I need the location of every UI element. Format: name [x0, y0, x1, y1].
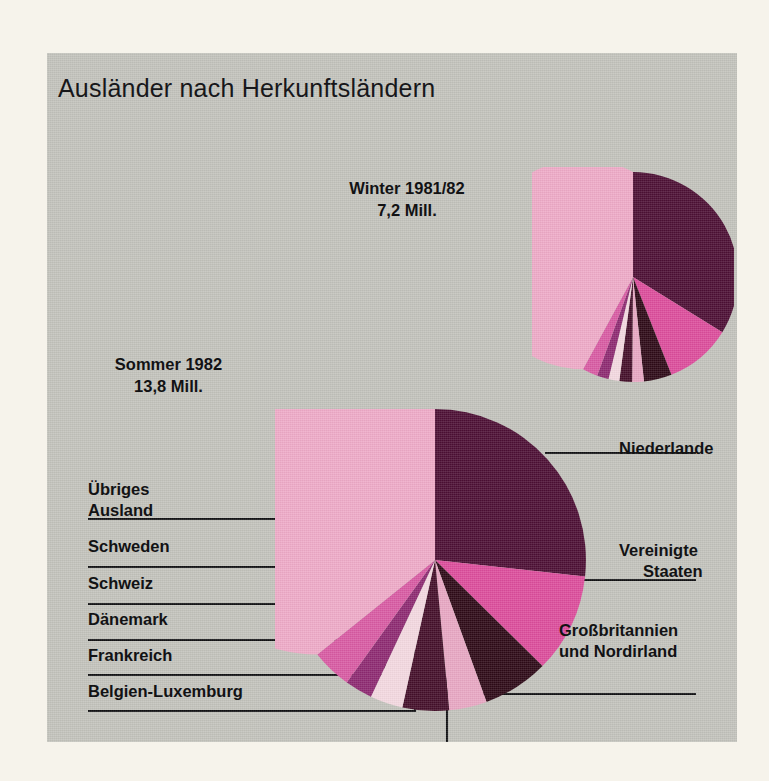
pie-chart-sommer — [275, 409, 613, 742]
caption-winter: Winter 1981/82 7,2 Mill. — [317, 177, 497, 222]
label-uebriges-ausland-line1: Übriges — [88, 479, 153, 500]
page-title: Ausländer nach Herkunftsländern — [58, 74, 435, 103]
caption-sommer: Sommer 1982 13,8 Mill. — [76, 353, 261, 398]
pie-chart-winter — [532, 167, 734, 387]
caption-winter-period: Winter 1981/82 — [317, 177, 497, 199]
label-belgien-luxemburg: Belgien-Luxemburg — [88, 681, 243, 702]
caption-sommer-total: 13,8 Mill. — [76, 375, 261, 397]
caption-sommer-period: Sommer 1982 — [76, 353, 261, 375]
label-uebriges-ausland: Übriges Ausland — [88, 479, 153, 521]
label-vereinigte-staaten-line1: Vereinigte — [619, 540, 703, 561]
label-schweiz: Schweiz — [88, 573, 153, 594]
label-grossbritannien-line2: und Nordirland — [559, 641, 678, 662]
label-schweden: Schweden — [88, 536, 170, 557]
label-grossbritannien: Großbritannien und Nordirland — [559, 620, 678, 662]
label-niederlande: Niederlande — [619, 438, 713, 459]
label-uebriges-ausland-line2: Ausland — [88, 500, 153, 521]
caption-winter-total: 7,2 Mill. — [317, 199, 497, 221]
label-daenemark: Dänemark — [88, 609, 168, 630]
label-grossbritannien-line1: Großbritannien — [559, 620, 678, 641]
label-vereinigte-staaten-line2: Staaten — [619, 561, 703, 582]
figure-root: Ausländer nach Herkunftsländern Winter 1… — [0, 0, 769, 781]
label-frankreich: Frankreich — [88, 645, 172, 666]
pie-slice-sommer-niederlande — [435, 409, 586, 576]
label-vereinigte-staaten: Vereinigte Staaten — [619, 540, 703, 582]
